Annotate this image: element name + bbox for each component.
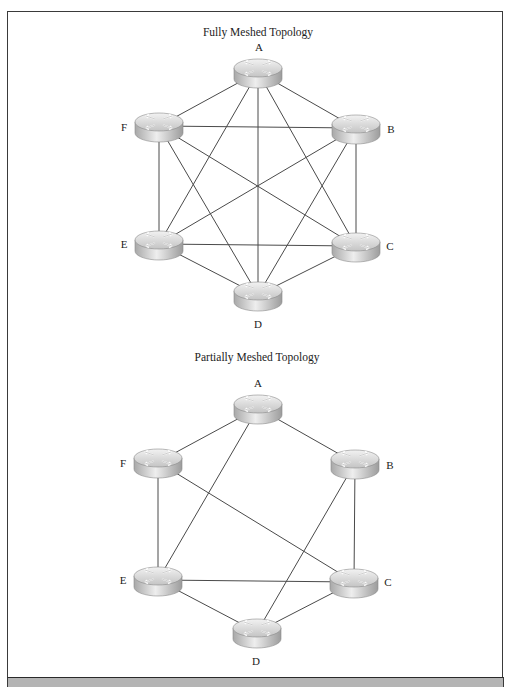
node-label-A: A: [254, 377, 262, 389]
node-label-C: C: [386, 240, 393, 252]
router-icon: [135, 231, 183, 260]
router-icon: [331, 450, 379, 479]
node-label-F: F: [121, 121, 127, 133]
router-icon: [134, 567, 182, 596]
router-icon: [234, 395, 282, 424]
node-label-D: D: [254, 318, 262, 330]
link-C-E: [158, 580, 354, 582]
router-icon: [134, 449, 182, 478]
node-label-F: F: [120, 457, 126, 469]
link-A-E: [159, 72, 258, 244]
node-label-E: E: [121, 238, 128, 250]
router-icon: [233, 619, 281, 648]
diagram-title: Partially Meshed Topology: [195, 351, 320, 364]
node-label-B: B: [386, 459, 393, 471]
router-icon: [330, 569, 378, 598]
link-A-E: [158, 408, 258, 580]
topology-diagrams: Fully Meshed TopologyABCDEFPartially Mes…: [0, 0, 512, 687]
diagram-title: Fully Meshed Topology: [203, 26, 313, 39]
link-C-F: [158, 462, 354, 582]
link-A-C: [258, 72, 356, 246]
router-icon: [234, 59, 282, 88]
node-label-E: E: [120, 574, 127, 586]
node-label-B: B: [387, 123, 394, 135]
node-label-A: A: [255, 41, 263, 53]
router-icon: [332, 233, 380, 262]
router-icon: [234, 282, 282, 311]
node-label-D: D: [252, 655, 260, 667]
node-label-C: C: [384, 576, 391, 588]
router-icon: [332, 115, 380, 144]
router-icon: [135, 113, 183, 142]
link-B-C: [354, 463, 355, 582]
